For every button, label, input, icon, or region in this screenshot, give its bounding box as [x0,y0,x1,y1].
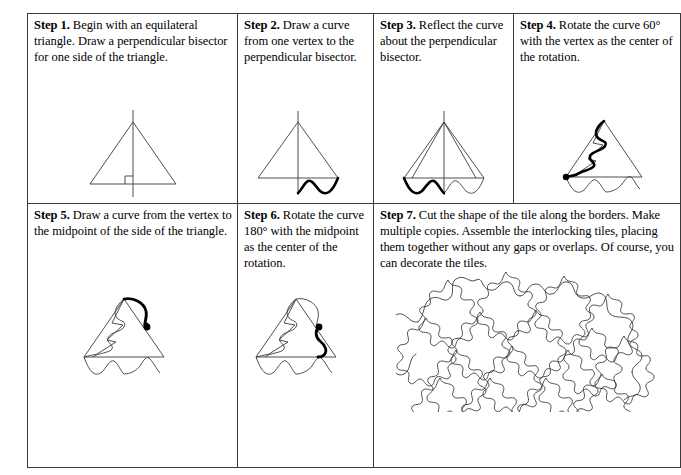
table-row: Step 5. Draw a curve from the vertex to … [28,204,681,468]
cell-step-2: Step 2. Draw a curve from one vertex to … [238,14,374,204]
step-7-body: Cut the shape of the tile along the bord… [380,208,674,270]
figure-step-7 [374,262,680,412]
step-1-label: Step 1. [34,18,70,32]
tessellation-of-interlocking-tiles-icon [396,262,658,412]
rotation-center-dot [562,174,568,180]
midpoint-dot [315,324,322,331]
table-row: Step 1. Begin with an equilateral triang… [28,14,681,204]
steps-table-container: Step 1. Begin with an equilateral triang… [27,13,632,453]
step-6-label: Step 6. [244,208,280,222]
cell-step-5: Step 5. Draw a curve from the vertex to … [28,204,238,468]
cell-step-4: Step 4. Rotate the curve 60° with the ve… [514,14,681,204]
triangle-with-perpendicular-bisector-icon [68,105,198,201]
steps-table: Step 1. Begin with an equilateral triang… [27,13,681,468]
triangle-with-rotated-curve-180-icon [244,283,368,391]
figure-step-2 [238,105,373,201]
cell-step-3: Step 3. Reflect the curve about the perp… [374,14,514,204]
figure-step-4 [514,101,680,201]
triangle-with-rotated-curve-60-icon [530,101,665,201]
step-5-text: Step 5. Draw a curve from the vertex to … [34,208,232,240]
cell-step-1: Step 1. Begin with an equilateral triang… [28,14,238,204]
step-2-label: Step 2. [244,18,280,32]
figure-step-5 [28,283,237,391]
triangle-with-reflected-curve-icon [382,105,506,201]
triangle-with-curve-to-midpoint-icon [58,283,208,391]
step-5-label: Step 5. [34,208,70,222]
step-3-label: Step 3. [380,18,416,32]
cell-step-7: Step 7. Cut the shape of the tile along … [374,204,681,468]
step-2-text: Step 2. Draw a curve from one vertex to … [244,18,368,66]
cell-step-6: Step 6. Rotate the curve 180° with the m… [238,204,374,468]
step-6-text: Step 6. Rotate the curve 180° with the m… [244,208,368,272]
figure-step-1 [28,105,237,201]
step-7-label: Step 7. [380,208,416,222]
midpoint-dot [143,324,150,331]
step-3-text: Step 3. Reflect the curve about the perp… [380,18,508,66]
figure-step-6 [238,283,373,391]
step-1-text: Step 1. Begin with an equilateral triang… [34,18,232,66]
step-4-text: Step 4. Rotate the curve 60° with the ve… [520,18,675,66]
step-4-label: Step 4. [520,18,556,32]
figure-step-3 [374,105,513,201]
triangle-with-curve-from-vertex-icon [246,105,366,201]
